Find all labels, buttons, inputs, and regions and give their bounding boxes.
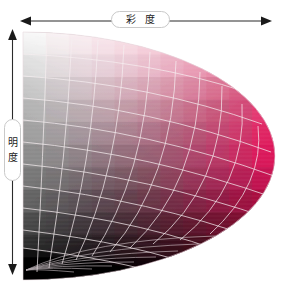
chroma-axis-label: value-10-white 彩 度 [111, 11, 170, 28]
color-swatch [206, 167, 229, 190]
chroma-axis-arrowhead-right [261, 17, 272, 26]
color-swatch [183, 257, 206, 280]
color-swatch [69, 167, 92, 190]
color-swatch [229, 55, 252, 78]
color-swatch [46, 55, 69, 78]
color-swatch [138, 100, 161, 123]
color-swatch [138, 32, 161, 55]
color-swatch [252, 167, 275, 190]
color-swatch [183, 32, 206, 55]
color-swatch [69, 190, 92, 213]
color-swatch [229, 32, 252, 55]
color-swatch [206, 32, 229, 55]
color-swatch [23, 235, 46, 258]
color-swatch [115, 55, 138, 78]
color-swatch [92, 190, 115, 213]
color-swatch [138, 77, 161, 100]
color-swatch [252, 212, 275, 235]
chroma-label-char-a: 彩 [126, 15, 136, 25]
value-label-char-b: 度 [8, 153, 18, 163]
color-swatch [206, 235, 229, 258]
color-swatch [46, 32, 69, 55]
color-swatch [229, 257, 252, 280]
color-swatch [46, 100, 69, 123]
color-swatch [92, 257, 115, 280]
color-solid-svg [0, 0, 285, 284]
color-swatch [92, 55, 115, 78]
color-swatch [206, 257, 229, 280]
chroma-axis-arrowhead-left [20, 17, 31, 26]
color-swatch [206, 100, 229, 123]
color-swatch [252, 257, 275, 280]
color-swatch [160, 167, 183, 190]
color-swatch [115, 190, 138, 213]
color-swatch [23, 55, 46, 78]
color-swatch [206, 190, 229, 213]
color-solid-body [23, 32, 280, 281]
color-swatch [252, 32, 275, 55]
color-swatch [115, 32, 138, 55]
color-swatch [206, 77, 229, 100]
color-swatch [160, 77, 183, 100]
color-swatch [46, 235, 69, 258]
color-swatch [252, 122, 275, 145]
color-swatch [23, 77, 46, 100]
color-swatch [229, 235, 252, 258]
value-axis-arrowhead-top [8, 29, 17, 40]
color-swatch [23, 100, 46, 123]
color-swatch [160, 257, 183, 280]
color-solid-figure: value-10-white 彩 度 明 度 [0, 0, 285, 284]
color-swatch [183, 77, 206, 100]
color-swatch [252, 235, 275, 258]
color-swatch [115, 122, 138, 145]
color-swatch [23, 32, 46, 55]
color-swatch [183, 55, 206, 78]
color-swatch [252, 190, 275, 213]
value-axis-label: 明 度 [4, 119, 21, 181]
color-swatch [252, 55, 275, 78]
color-swatch [92, 122, 115, 145]
chroma-label-char-b: 度 [145, 15, 155, 25]
color-swatch [46, 77, 69, 100]
color-swatch [160, 32, 183, 55]
color-swatch [92, 32, 115, 55]
color-swatch [206, 122, 229, 145]
color-swatch [206, 55, 229, 78]
value-axis-arrowhead-bottom [8, 264, 17, 275]
color-swatch [92, 100, 115, 123]
value-label-char-a: 明 [8, 138, 18, 148]
color-swatch [46, 167, 69, 190]
color-swatch [252, 77, 275, 100]
color-swatch [229, 77, 252, 100]
color-swatch [160, 122, 183, 145]
